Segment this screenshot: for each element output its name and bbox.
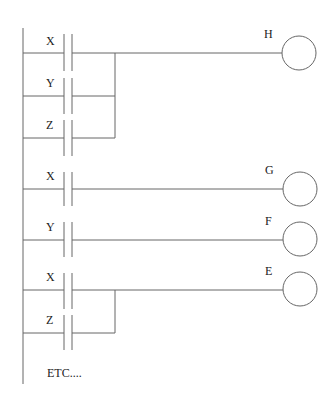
ladder-diagram: X Y Z H X G Y F [0, 0, 336, 402]
coil-e [283, 272, 317, 306]
rung-g: X G [23, 163, 317, 206]
contact-label-y: Y [46, 76, 55, 90]
contact-label-x: X [46, 270, 55, 284]
coil-f [283, 222, 317, 256]
etc-label: ETC.... [47, 366, 82, 380]
coil-h [282, 36, 316, 70]
rung-h: X Y Z H [23, 27, 316, 156]
contact-label-z: Z [46, 118, 53, 132]
coil-label-e: E [265, 264, 272, 278]
rung-f: Y F [23, 214, 317, 257]
contact-label-x: X [46, 169, 55, 183]
coil-label-f: F [265, 214, 272, 228]
contact-label-y: Y [46, 220, 55, 234]
contact-label-z: Z [46, 313, 53, 327]
coil-label-h: H [264, 27, 273, 41]
contact-label-x: X [46, 34, 55, 48]
rung-e: X Z E [23, 264, 317, 350]
coil-g [283, 172, 317, 206]
coil-label-g: G [265, 163, 274, 177]
